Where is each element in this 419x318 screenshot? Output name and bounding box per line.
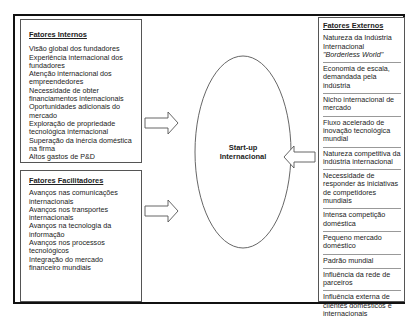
startup-label-line2: Internacional xyxy=(195,152,291,161)
list-item: Atenção internacional dos empreendedores xyxy=(29,70,133,87)
list-item: Influência da rede de parceiros xyxy=(323,269,401,292)
startup-label-line1: Start-up xyxy=(195,143,291,152)
startup-label: Start-up Internacional xyxy=(195,143,291,161)
list-item: Integração do mercado financeiro mundiai… xyxy=(29,256,133,273)
list-item: Fluxo acelerado de inovação tecnológica … xyxy=(323,117,401,148)
fatores-internos-box: Fatores Internos Visão global dos fundad… xyxy=(20,19,142,163)
list-item: Altos gastos de P&D xyxy=(29,153,133,161)
list-item: Natureza competitiva da indústria intern… xyxy=(323,148,401,171)
list-item: Padrão mundial xyxy=(323,255,401,269)
list-item: Nicho internacional de mercado xyxy=(323,94,401,117)
list-item: Natureza da Indústria Internacional "Bor… xyxy=(323,32,401,63)
list-item: Avanços na tecnologia da informação xyxy=(29,222,133,239)
list-item: Economia de escala, demandada pela indús… xyxy=(323,63,401,94)
list-item: Necessidade de responder às iniciativas … xyxy=(323,170,401,209)
list-item: Intensa competição doméstica xyxy=(323,209,401,232)
list-item: Experiência internacional dos fundadores xyxy=(29,54,133,71)
list-item: Influência externa de clientes doméstico… xyxy=(323,291,401,318)
list-item-text: Natureza da Indústria Internacional xyxy=(323,33,392,50)
list-item: Superação da inércia doméstica na firma xyxy=(29,137,133,154)
list-item: Exploração de propriedade tecnológica in… xyxy=(29,120,133,137)
arrow-right-icon xyxy=(145,112,178,134)
list-item: Avanços nos processos tecnológicos xyxy=(29,239,133,256)
list-item: Avanços nas comunicações internacionais xyxy=(29,189,133,206)
arrow-right-icon xyxy=(145,200,178,222)
fatores-facilitadores-box: Fatores Facilitadores Avanços nas comuni… xyxy=(20,170,142,302)
list-item-emphasis: "Borderless World" xyxy=(323,50,383,59)
fatores-externos-title: Fatores Externos xyxy=(323,22,401,30)
list-item: Necessidade de obter financiamentos inte… xyxy=(29,87,133,104)
fatores-internos-title: Fatores Internos xyxy=(29,31,133,39)
list-item: Pequeno mercado doméstico xyxy=(323,232,401,255)
list-item: Avanços nos transportes internacionais xyxy=(29,206,133,223)
list-item: Oportunidades adicionais do mercado xyxy=(29,103,133,120)
fatores-facilitadores-title: Fatores Facilitadores xyxy=(29,177,133,185)
fatores-externos-box: Fatores Externos Natureza da Indústria I… xyxy=(318,17,405,302)
